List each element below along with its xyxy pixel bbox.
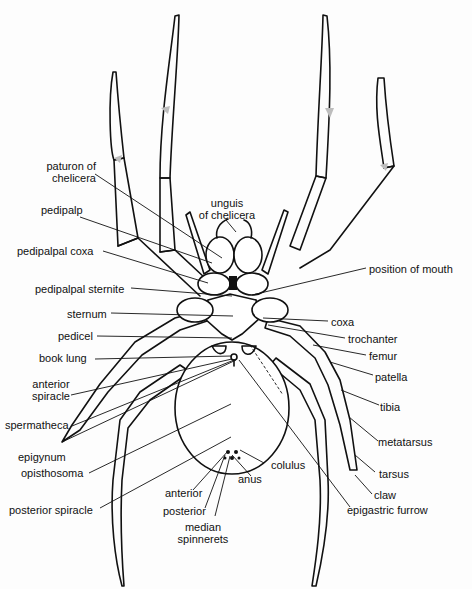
leg-left-1 — [160, 15, 205, 278]
fang-left — [217, 219, 228, 238]
leader-line — [355, 455, 375, 472]
leader-line — [355, 475, 372, 494]
label-median-spinnerets: medianspinnerets — [168, 521, 238, 545]
chelicera-right — [234, 237, 262, 273]
leader-line — [226, 220, 236, 232]
label-unguis-of-chelicera: unguisof chelicera — [192, 197, 262, 221]
fang-right — [244, 220, 252, 238]
label-tibia: tibia — [380, 401, 410, 413]
label-femur: femur — [369, 350, 409, 362]
label-pedipalp: pedipalp — [41, 204, 101, 216]
sternum-shape — [204, 294, 260, 340]
label-patella: patella — [375, 371, 420, 383]
label-coxa: coxa — [331, 316, 361, 328]
label-pedipalpal-sternite: pedipalpal sternite — [35, 283, 135, 295]
label-sternum: sternum — [67, 308, 112, 320]
label-pedipalpal-coxa: pedipalpal coxa — [17, 245, 107, 257]
pedipalpal-coxa-right — [236, 273, 268, 295]
label-claw: claw — [374, 489, 404, 501]
cephalothorax — [177, 219, 288, 340]
label-book-lung: book lung — [39, 352, 94, 364]
leader-line — [313, 345, 366, 355]
pedipalpal-coxa-left — [198, 273, 230, 295]
label-trochanter: trochanter — [348, 333, 408, 345]
leg-right-1 — [290, 15, 334, 250]
leg-left-2 — [110, 72, 200, 296]
coxa-left-1 — [177, 298, 213, 322]
label-anterior-spiracle: anteriorspiracle — [29, 378, 73, 402]
label-paturon-of-chelicera: paturon ofchelicera — [40, 160, 96, 184]
label-tarsus: tarsus — [379, 468, 419, 480]
leader-line — [349, 417, 378, 441]
spider-anatomy-diagram: paturon ofcheliceraunguisof cheliceraped… — [0, 0, 472, 589]
label-epigastric-furrow: epigastric furrow — [347, 504, 442, 516]
mouth-region — [229, 276, 237, 290]
label-anterior: anterior — [165, 487, 210, 499]
leader-line — [341, 390, 379, 405]
leg-right-2 — [300, 78, 394, 268]
label-pedicel: pedicel — [58, 330, 98, 342]
label-posterior: posterior — [163, 505, 213, 517]
leader-line — [97, 336, 232, 338]
label-opisthosoma: opisthosoma — [21, 467, 87, 479]
label-epigynum: epigynum — [18, 451, 73, 463]
label-anus: anus — [238, 473, 268, 485]
label-position-of-mouth: position of mouth — [369, 263, 469, 275]
label-posterior-spiracle: posterior spiracle — [9, 504, 104, 516]
chelicera-left — [206, 237, 234, 273]
label-colulus: colulus — [271, 459, 316, 471]
label-spermatheca: spermatheca — [5, 419, 71, 431]
label-metatarsus: metatarsus — [378, 436, 438, 448]
